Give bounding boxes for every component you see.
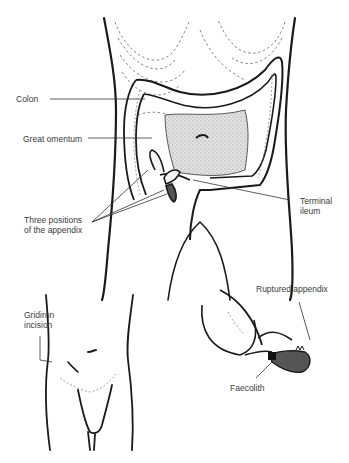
- label-faecolith: Faecolith: [230, 383, 265, 393]
- label-ruptured-appendix: Ruptured appendix: [256, 284, 328, 294]
- label-terminal-2: ileum: [300, 206, 320, 216]
- label-colon: Colon: [16, 94, 38, 104]
- groin-dashed: [60, 374, 116, 392]
- ruptured-appendix-illustration: [202, 290, 310, 372]
- gridiron-leader: [40, 336, 52, 362]
- lower-torso-outline: [46, 295, 133, 450]
- label-three-positions-2: of the appendix: [24, 225, 82, 235]
- label-three-positions-1: Three positions: [24, 215, 82, 225]
- great-omentum: [165, 110, 248, 176]
- label-gridiron-1: Gridiron: [24, 310, 54, 320]
- label-gridiron-2: incision: [24, 320, 52, 330]
- label-great-omentum: Great omentum: [23, 134, 82, 144]
- label-terminal-1: Terminal: [300, 196, 332, 206]
